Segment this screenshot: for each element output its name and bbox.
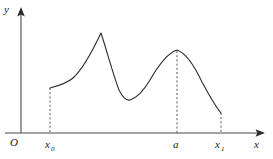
origin-label: O: [10, 136, 18, 148]
y-axis-label: y: [3, 3, 9, 15]
tick-label-a: a: [173, 138, 179, 150]
figure-canvas: y x O x 0 a x 1: [0, 0, 273, 159]
tick-label-x0-base: x: [44, 138, 50, 150]
function-graph-figure: y x O x 0 a x 1: [0, 0, 273, 159]
tick-label-x1-subscript: 1: [221, 145, 225, 153]
x-axis-label: x: [253, 138, 259, 150]
function-curve: [50, 33, 221, 113]
tick-label-x1-base: x: [214, 138, 220, 150]
tick-label-x0-subscript: 0: [51, 145, 55, 153]
